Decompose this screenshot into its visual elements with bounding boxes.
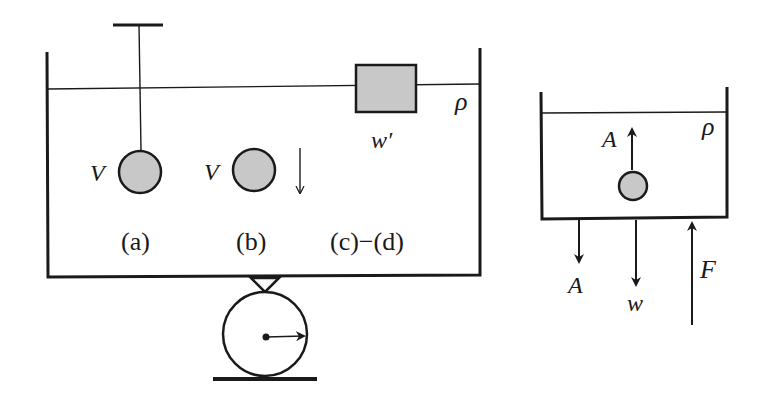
right-density-label: ρ bbox=[701, 112, 714, 141]
sphere-b bbox=[233, 149, 275, 191]
scale-needle-arrow-icon bbox=[266, 336, 304, 337]
weight-label: w bbox=[627, 290, 643, 316]
suspended-sphere-a: V bbox=[90, 25, 163, 193]
scale-pivot-triangle bbox=[251, 278, 279, 292]
case-label-b: (b) bbox=[236, 227, 266, 256]
weighing-scale bbox=[213, 278, 317, 379]
right-water-surface bbox=[542, 112, 726, 113]
sphere-b-volume-label: V bbox=[204, 159, 221, 185]
left-density-label: ρ bbox=[454, 87, 467, 116]
case-label-a: (a) bbox=[121, 227, 150, 256]
case-label-c-minus-d: (c)−(d) bbox=[330, 227, 404, 256]
block-weight-label: w′ bbox=[371, 127, 393, 153]
left-panel: V V w′ ρ (a) (b) (c)−(d) bbox=[47, 25, 480, 379]
suspension-string bbox=[139, 25, 141, 150]
buoyant-force-label: A bbox=[600, 126, 617, 152]
falling-sphere-b: V bbox=[204, 148, 300, 193]
sphere-a bbox=[119, 151, 161, 193]
block bbox=[356, 65, 416, 112]
sphere-a-volume-label: V bbox=[90, 160, 107, 186]
buoyancy-diagram: V V w′ ρ (a) (b) (c)−(d) bbox=[0, 0, 767, 403]
floating-block: w′ bbox=[356, 65, 416, 153]
immersed-sphere bbox=[619, 172, 647, 200]
reaction-force-label: A bbox=[566, 272, 583, 298]
right-panel: ρ A A w F bbox=[541, 87, 727, 325]
support-force-label: F bbox=[699, 255, 717, 284]
